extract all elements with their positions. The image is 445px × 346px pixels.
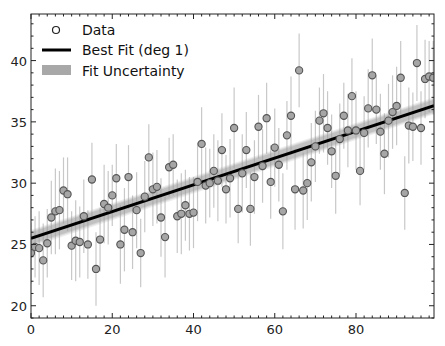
data-point	[145, 154, 152, 161]
data-point	[88, 176, 95, 183]
data-point	[336, 135, 343, 142]
data-point	[312, 143, 319, 150]
data-point	[393, 102, 400, 109]
data-point	[129, 229, 136, 236]
x-tick-label: 80	[348, 322, 365, 337]
data-point	[84, 241, 91, 248]
data-point	[401, 189, 408, 196]
data-point	[125, 173, 132, 180]
data-point	[328, 148, 335, 155]
data-point	[304, 180, 311, 187]
data-point	[194, 178, 201, 185]
data-point	[92, 265, 99, 272]
data-point	[64, 191, 71, 198]
data-point	[76, 238, 83, 245]
data-point	[247, 205, 254, 212]
legend-band-swatch-icon	[42, 65, 71, 75]
data-point	[239, 170, 246, 177]
data-point	[413, 59, 420, 66]
data-point	[417, 124, 424, 131]
data-point	[153, 183, 160, 190]
data-point	[170, 161, 177, 168]
data-point	[332, 172, 339, 179]
data-point	[141, 193, 148, 200]
legend-data-marker-icon	[53, 27, 60, 34]
x-tick-label: 20	[104, 322, 121, 337]
x-tick-label: 0	[27, 322, 35, 337]
data-point	[430, 74, 437, 81]
data-point	[40, 257, 47, 264]
data-point	[397, 74, 404, 81]
data-point	[377, 128, 384, 135]
data-point	[56, 207, 63, 214]
data-point	[222, 186, 229, 193]
data-point	[324, 124, 331, 131]
data-point	[133, 207, 140, 214]
data-point	[214, 177, 221, 184]
y-tick-label: 40	[10, 54, 27, 69]
data-point	[178, 210, 185, 217]
legend: DataBest Fit (deg 1)Fit Uncertainty	[42, 22, 189, 79]
y-tick-label: 20	[10, 299, 27, 314]
data-point	[198, 140, 205, 147]
data-point	[275, 161, 282, 168]
legend-label: Fit Uncertainty	[82, 63, 185, 79]
data-point	[361, 129, 368, 136]
data-point	[385, 117, 392, 124]
data-point	[369, 72, 376, 79]
data-point	[105, 204, 112, 211]
x-tick-label: 40	[185, 322, 202, 337]
data-point	[340, 112, 347, 119]
legend-label: Best Fit (deg 1)	[82, 42, 189, 58]
data-point	[137, 249, 144, 256]
data-point	[206, 180, 213, 187]
data-point	[344, 127, 351, 134]
data-point	[157, 214, 164, 221]
data-point	[259, 162, 266, 169]
data-point	[226, 175, 233, 182]
data-point	[255, 123, 262, 130]
data-point	[117, 241, 124, 248]
x-tick-label: 60	[266, 322, 283, 337]
data-point	[271, 144, 278, 151]
data-point	[121, 226, 128, 233]
y-tick-label: 30	[10, 176, 27, 191]
data-point	[409, 123, 416, 130]
data-point	[316, 117, 323, 124]
data-point	[352, 127, 359, 134]
data-point	[348, 93, 355, 100]
data-point	[283, 132, 290, 139]
data-point	[263, 115, 270, 122]
data-point	[308, 159, 315, 166]
data-point	[113, 175, 120, 182]
data-point	[109, 192, 116, 199]
data-point	[279, 208, 286, 215]
data-point	[210, 167, 217, 174]
y-tick-label: 25	[10, 237, 27, 252]
data-point	[267, 178, 274, 185]
data-point	[381, 150, 388, 157]
data-point	[287, 112, 294, 119]
scatter-chart: 020406080 2025303540 DataBest Fit (deg 1…	[0, 0, 445, 346]
data-point	[161, 233, 168, 240]
data-point	[231, 124, 238, 131]
data-point	[80, 213, 87, 220]
data-point	[190, 209, 197, 216]
data-point	[320, 110, 327, 117]
data-point	[373, 106, 380, 113]
y-tick-label: 35	[10, 115, 27, 130]
data-point	[96, 236, 103, 243]
data-point	[36, 245, 43, 252]
data-point	[218, 146, 225, 153]
data-point	[44, 240, 51, 247]
legend-label: Data	[82, 22, 115, 38]
data-point	[300, 187, 307, 194]
data-point	[365, 105, 372, 112]
data-point	[296, 67, 303, 74]
data-point	[291, 186, 298, 193]
data-point	[251, 173, 258, 180]
data-point	[356, 167, 363, 174]
data-point	[235, 205, 242, 212]
data-point	[243, 146, 250, 153]
data-point	[182, 202, 189, 209]
